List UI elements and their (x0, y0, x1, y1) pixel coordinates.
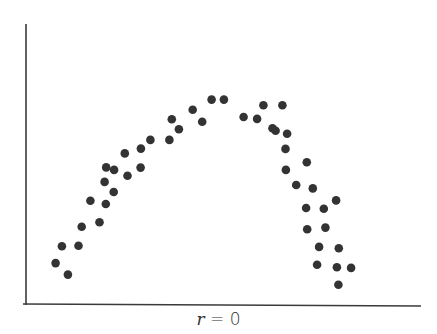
data-point (268, 124, 277, 133)
data-point (168, 115, 177, 124)
data-point (102, 163, 111, 172)
data-point (334, 280, 343, 289)
data-point (95, 218, 104, 227)
data-point (239, 113, 248, 122)
data-point (283, 130, 292, 139)
data-point (51, 259, 60, 268)
data-point (146, 136, 155, 145)
data-point (278, 101, 287, 110)
data-point (332, 196, 341, 205)
data-point (175, 125, 184, 134)
data-point (137, 144, 146, 153)
data-point (64, 270, 73, 279)
data-point (220, 95, 229, 104)
data-point (292, 181, 301, 190)
caption-variable: r (196, 309, 204, 329)
data-point (320, 205, 329, 214)
correlation-caption: r = 0 (0, 309, 437, 329)
data-point (74, 242, 83, 251)
scatter-chart (0, 0, 437, 334)
data-point (313, 261, 322, 270)
data-point (136, 163, 145, 172)
data-point (86, 196, 95, 205)
data-point (109, 188, 118, 197)
data-point (77, 222, 86, 231)
data-point (110, 166, 119, 175)
data-point (102, 200, 111, 209)
data-point (207, 95, 216, 104)
data-point (188, 105, 197, 114)
data-point (100, 178, 109, 187)
data-point (121, 149, 130, 158)
data-point (335, 244, 344, 253)
data-points (51, 95, 355, 289)
data-point (198, 117, 207, 126)
data-point (347, 264, 356, 273)
data-point (315, 243, 324, 252)
data-point (123, 172, 132, 181)
caption-value: = 0 (205, 309, 241, 329)
data-point (321, 223, 330, 232)
data-point (333, 263, 342, 272)
data-point (309, 184, 318, 193)
data-point (302, 204, 311, 213)
data-point (253, 115, 262, 124)
data-point (281, 145, 290, 154)
data-point (165, 136, 174, 145)
data-point (259, 101, 268, 110)
data-point (303, 225, 312, 234)
data-point (303, 158, 312, 167)
data-point (282, 166, 291, 175)
data-point (58, 242, 67, 251)
x-axis (23, 304, 421, 306)
